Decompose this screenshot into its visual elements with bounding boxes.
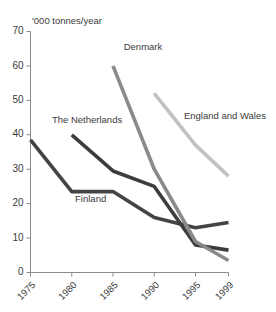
x-tick-label: 1995 (180, 279, 203, 302)
series-label-finland: Finland (75, 193, 106, 204)
x-axis-ticks: 197519801985199019951999 (15, 273, 236, 302)
x-tick-label: 1990 (138, 279, 161, 302)
y-tick-label: 20 (12, 197, 24, 208)
chart-axes (31, 32, 229, 273)
y-axis-ticks: 010203040506070 (12, 25, 30, 277)
y-tick-label: 40 (12, 128, 24, 139)
line-chart: '000 tonnes/year 010203040506070 1975198… (0, 0, 276, 312)
y-tick-label: 70 (12, 25, 24, 36)
y-tick-label: 50 (12, 94, 24, 105)
y-tick-label: 30 (12, 163, 24, 174)
y-tick-label: 10 (12, 232, 24, 243)
series-line-finland (31, 140, 229, 228)
series-label-denmark: Denmark (124, 41, 163, 52)
y-tick-label: 60 (12, 60, 24, 71)
y-tick-label: 0 (18, 266, 24, 277)
chart-svg: '000 tonnes/year 010203040506070 1975198… (0, 0, 276, 312)
x-tick-label: 1999 (213, 279, 236, 302)
y-axis-title: '000 tonnes/year (32, 15, 102, 26)
series-line-england-and-wales (154, 93, 228, 176)
series-lines (31, 66, 229, 261)
x-tick-label: 1985 (97, 279, 120, 302)
series-line-denmark (113, 66, 229, 261)
axis-lines (31, 32, 229, 273)
x-tick-label: 1975 (15, 279, 38, 302)
x-tick-label: 1980 (56, 279, 79, 302)
series-label-england-and-wales: England and Wales (184, 110, 266, 121)
series-label-the-netherlands: The Netherlands (52, 114, 122, 125)
